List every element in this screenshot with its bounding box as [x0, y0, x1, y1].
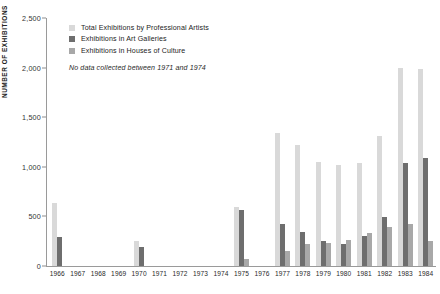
chart-legend: Total Exhibitions by Professional Artist… [69, 22, 209, 72]
x-axis-label: 1969 [111, 270, 126, 277]
x-axis-label: 1977 [275, 270, 290, 277]
bar[interactable] [326, 243, 331, 266]
bar-group [334, 18, 354, 266]
legend-label-total: Total Exhibitions by Professional Artist… [81, 24, 209, 32]
legend-label-houses-of-culture: Exhibitions in Houses of Culture [81, 47, 185, 55]
x-axis-label: 1983 [398, 270, 413, 277]
x-axis-label: 1966 [50, 270, 65, 277]
x-axis-label: 1982 [377, 270, 392, 277]
x-axis-label: 1976 [254, 270, 269, 277]
legend-swatch-total [69, 25, 75, 31]
bar[interactable] [285, 251, 290, 266]
x-axis-label: 1970 [132, 270, 147, 277]
bar[interactable] [139, 247, 144, 266]
bar-group [395, 18, 415, 266]
legend-item-houses-of-culture[interactable]: Exhibitions in Houses of Culture [69, 45, 209, 57]
bar-group [293, 18, 313, 266]
bar-group [375, 18, 395, 266]
legend-swatch-art-galleries [69, 36, 75, 42]
bar-chart: NUMBER OF EXHIBITIONS 05001,0001,5002,00… [0, 0, 440, 294]
bar-group [231, 18, 251, 266]
bar-group [272, 18, 292, 266]
bar[interactable] [244, 259, 249, 266]
bar-group [252, 18, 272, 266]
x-axis-label: 1980 [336, 270, 351, 277]
bar-group [313, 18, 333, 266]
y-tick-label: 0 [0, 262, 41, 271]
x-axis-label: 1968 [91, 270, 106, 277]
x-axis-label: 1975 [234, 270, 249, 277]
bar-group [211, 18, 231, 266]
legend-note: No data collected between 1971 and 1974 [69, 64, 209, 72]
x-axis-label: 1984 [418, 270, 433, 277]
bar[interactable] [57, 237, 62, 266]
x-axis-label: 1981 [357, 270, 372, 277]
x-axis-line [46, 266, 436, 267]
bar[interactable] [428, 241, 433, 266]
x-axis-label: 1967 [70, 270, 85, 277]
x-axis-label: 1974 [213, 270, 228, 277]
bar[interactable] [305, 244, 310, 266]
bar[interactable] [367, 233, 372, 266]
y-tick-label: 1,500 [0, 113, 41, 122]
y-tick-label: 500 [0, 212, 41, 221]
bar[interactable] [346, 240, 351, 266]
legend-swatch-houses-of-culture [69, 48, 75, 54]
x-axis-label: 1971 [152, 270, 167, 277]
bar-group [354, 18, 374, 266]
x-axis-label: 1978 [295, 270, 310, 277]
y-tick-label: 2,000 [0, 63, 41, 72]
bar[interactable] [408, 224, 413, 266]
legend-label-art-galleries: Exhibitions in Art Galleries [81, 35, 167, 43]
x-axis-label: 1979 [316, 270, 331, 277]
legend-item-art-galleries[interactable]: Exhibitions in Art Galleries [69, 34, 209, 46]
y-tick-label: 1,000 [0, 162, 41, 171]
bar[interactable] [387, 227, 392, 266]
x-axis-label: 1972 [173, 270, 188, 277]
y-tick-label: 2,500 [0, 14, 41, 23]
bar-group [416, 18, 436, 266]
x-axis-label: 1973 [193, 270, 208, 277]
bar-group [47, 18, 67, 266]
legend-item-total[interactable]: Total Exhibitions by Professional Artist… [69, 22, 209, 34]
